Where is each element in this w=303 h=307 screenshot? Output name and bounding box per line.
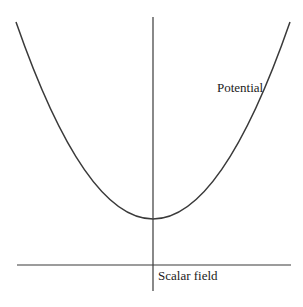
curve-label: Potential: [217, 80, 263, 96]
x-axis-label: Scalar field: [158, 268, 218, 284]
potential-diagram: [0, 0, 303, 307]
